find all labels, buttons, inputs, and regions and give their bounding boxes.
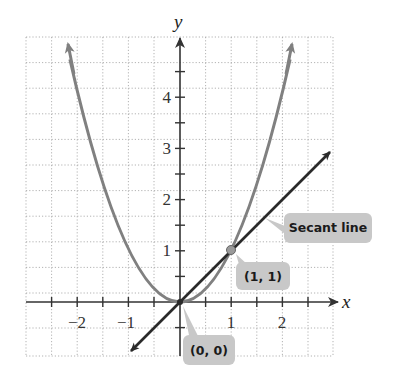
callout-point-1-1-text: (1, 1) <box>244 269 282 284</box>
callout-secant-line: Secant line <box>265 213 372 243</box>
y-axis-label: y <box>172 11 183 32</box>
secant-line-left <box>131 302 180 351</box>
tick-label-x-neg2: −2 <box>68 313 86 332</box>
chart: −2 −1 1 2 1 2 3 4 x y Secant line (1, 1)… <box>0 0 393 384</box>
tick-label-x-2: 2 <box>278 313 287 332</box>
x-axis-label: x <box>341 291 351 312</box>
tick-label-y-3: 3 <box>163 139 172 158</box>
callout-point-0-0-text: (0, 0) <box>190 343 228 358</box>
tick-label-x-1: 1 <box>227 313 236 332</box>
callout-secant-text: Secant line <box>289 220 368 235</box>
axes <box>26 38 338 356</box>
tick-label-y-4: 4 <box>163 88 172 107</box>
tick-label-y-2: 2 <box>163 190 172 209</box>
tick-label-y-1: 1 <box>163 241 172 260</box>
tick-label-x-neg1: −1 <box>117 313 135 332</box>
callout-point-1-1: (1, 1) <box>236 254 290 290</box>
point-0-0 <box>177 299 183 305</box>
point-1-1 <box>227 246 236 255</box>
